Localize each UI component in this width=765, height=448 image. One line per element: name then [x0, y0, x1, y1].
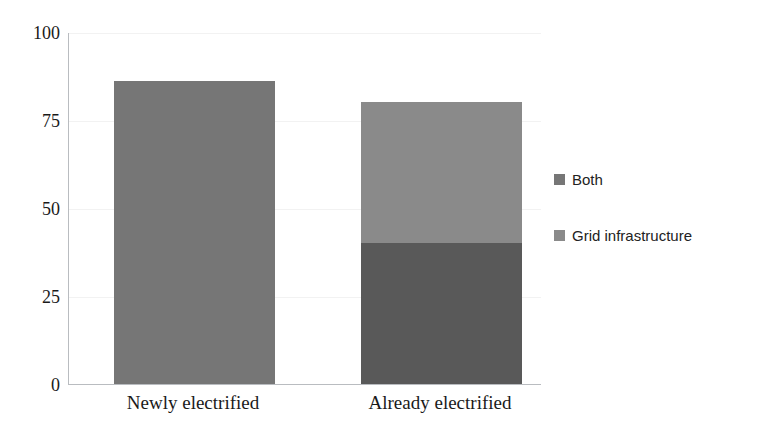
legend-entry-both[interactable]: Both	[554, 172, 603, 187]
bar-segment-both[interactable]	[361, 243, 522, 384]
legend-entry-grid-infrastructure[interactable]: Grid infrastructure	[554, 228, 692, 243]
legend-swatch-grid-infrastructure	[554, 230, 565, 241]
y-tick-label-100: 100	[8, 24, 60, 42]
bar-segment-grid-infrastructure[interactable]	[361, 102, 522, 243]
bar-already-electrified[interactable]	[361, 102, 522, 384]
x-axis-labels: Newly electrified Already electrified	[68, 392, 541, 432]
legend-swatch-both	[554, 174, 565, 185]
y-tick-label-75: 75	[8, 112, 60, 130]
y-tick-label-25: 25	[8, 288, 60, 306]
x-tick-label-already-electrified: Already electrified	[369, 392, 512, 414]
x-tick-label-newly-electrified: Newly electrified	[127, 392, 259, 414]
plot-area	[68, 33, 541, 385]
legend-label-both: Both	[572, 172, 603, 187]
bar-segment-grid-infrastructure[interactable]	[114, 81, 275, 384]
legend-label-grid-infrastructure: Grid infrastructure	[572, 228, 692, 243]
y-tick-label-50: 50	[8, 200, 60, 218]
bar-newly-electrified[interactable]	[114, 81, 275, 384]
y-axis-labels: 100 75 50 25 0	[0, 33, 60, 385]
chart-container: 100 75 50 25 0 Newly electrified Already…	[0, 0, 765, 448]
y-tick-label-0: 0	[8, 376, 60, 394]
gridline-100	[69, 33, 541, 34]
